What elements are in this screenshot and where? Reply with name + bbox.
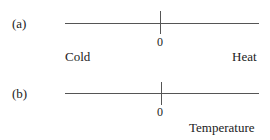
zero-tick-a (160, 11, 161, 34)
panel-label-b: (b) (12, 86, 27, 102)
cold-label: Cold (65, 49, 90, 65)
zero-label-a: 0 (157, 35, 163, 50)
zero-label-b: 0 (157, 105, 163, 120)
axis-line-a (65, 23, 259, 24)
panel-label-a: (a) (12, 16, 26, 32)
temperature-label: Temperature (189, 120, 255, 136)
zero-tick-b (161, 82, 162, 105)
heat-label: Heat (232, 49, 257, 65)
axis-line-b (65, 93, 259, 94)
